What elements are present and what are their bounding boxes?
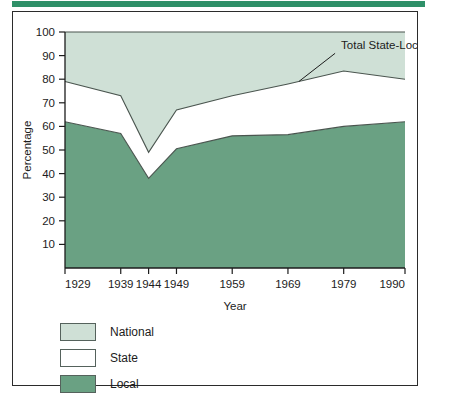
accent-bar [12,1,425,7]
chart-frame: 1020304050607080901001929193919441949195… [12,11,418,386]
legend-label-national: National [110,326,154,338]
chart-legend: National State Local [60,320,154,398]
x-tick-label: 1929 [65,278,91,290]
x-tick-label: 1979 [331,278,357,290]
x-tick-label: 1944 [136,278,162,290]
x-tick-label: 1959 [219,278,245,290]
legend-item-state[interactable]: State [60,346,154,370]
legend-label-state: State [110,352,138,364]
y-tick-label: 10 [42,238,55,250]
y-axis-title: Percentage [21,121,33,180]
x-tick-label: 1939 [108,278,134,290]
x-tick-label: 1990 [379,278,405,290]
legend-label-local: Local [110,378,139,390]
x-axis-title: Year [223,300,246,312]
y-tick-label: 80 [42,73,55,85]
y-tick-label: 70 [42,97,55,109]
x-tick-label: 1969 [275,278,301,290]
x-tick-label: 1949 [164,278,190,290]
legend-swatch-state [60,349,96,367]
y-tick-label: 100 [36,26,55,38]
legend-swatch-local [60,375,96,393]
y-tick-label: 60 [42,120,55,132]
y-tick-label: 40 [42,168,55,180]
figure-container: 1020304050607080901001929193919441949195… [0,0,449,402]
legend-item-national[interactable]: National [60,320,154,344]
y-tick-label: 30 [42,191,55,203]
annotation-total-state-local: Total State-Local [341,39,417,51]
area-band-local [65,122,405,268]
legend-item-local[interactable]: Local [60,372,154,396]
y-tick-label: 90 [42,50,55,62]
y-tick-label: 50 [42,144,55,156]
legend-swatch-national [60,323,96,341]
y-tick-label: 20 [42,215,55,227]
